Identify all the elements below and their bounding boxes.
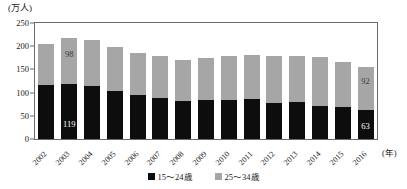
bar-value-label: 98 (65, 50, 74, 59)
bar-segment-25-34[interactable] (289, 56, 305, 102)
legend-item-label: 15～24歳 (158, 170, 193, 182)
x-axis-tick-label: 2012 (260, 150, 277, 167)
bar-segment-15-24[interactable] (84, 86, 100, 139)
bar-column[interactable] (335, 62, 351, 139)
bar-segment-25-34[interactable] (107, 47, 123, 92)
bar-column[interactable] (312, 57, 328, 139)
x-axis-tick-group: 2002200320042005200620072008200920102011… (35, 141, 377, 173)
y-axis-tick-label: 250 (16, 19, 29, 27)
x-axis-tick-label: 2006 (123, 150, 140, 167)
bar-segment-25-34[interactable] (266, 56, 282, 103)
legend-item-label: 25～34歳 (225, 170, 260, 182)
x-axis-tick-label: 2008 (169, 150, 186, 167)
x-axis-unit-label: (年) (382, 146, 397, 158)
bar-segment-25-34[interactable] (152, 56, 168, 98)
bar-segment-25-34[interactable] (175, 60, 191, 101)
x-axis-tick-label: 2002 (32, 150, 49, 167)
bar-segment-25-34[interactable] (38, 44, 54, 85)
x-axis-tick-label: 2007 (146, 150, 163, 167)
y-axis-tick-label: 150 (16, 65, 29, 73)
bar-column[interactable] (152, 56, 168, 140)
bar-column[interactable] (244, 55, 260, 139)
bar-segment-25-34[interactable] (221, 56, 237, 101)
bar-column[interactable]: 9263 (358, 67, 374, 139)
bar-column[interactable] (266, 56, 282, 139)
bar-segment-15-24[interactable] (152, 98, 168, 139)
bar-segment-15-24[interactable] (221, 100, 237, 139)
x-axis-tick-label: 2013 (283, 150, 300, 167)
bar-segment-25-34[interactable] (312, 57, 328, 106)
black-square-icon (148, 173, 155, 180)
bar-column[interactable] (175, 60, 191, 139)
bar-segment-15-24[interactable] (198, 100, 214, 139)
bar-column[interactable] (289, 56, 305, 139)
stacked-bar-chart: (万人) 250200150100500 981199263 200220032… (0, 0, 407, 189)
bar-column[interactable] (198, 58, 214, 139)
bar-segment-15-24[interactable] (130, 95, 146, 139)
x-axis-tick-label: 2016 (351, 150, 368, 167)
y-axis-tick-label: 200 (16, 42, 29, 50)
bar-segment-25-34[interactable] (84, 40, 100, 86)
x-axis-tick-label: 2005 (100, 150, 117, 167)
y-axis-unit-label: (万人) (8, 3, 32, 14)
bar-segment-15-24[interactable] (289, 102, 305, 139)
x-axis-tick-label: 2003 (55, 150, 72, 167)
x-axis-tick-label: 2011 (237, 150, 254, 167)
bar-column[interactable] (107, 47, 123, 139)
x-axis-tick-label: 2015 (328, 150, 345, 167)
bar-segment-25-34[interactable] (198, 58, 214, 100)
bar-value-label: 92 (361, 77, 370, 86)
bar-segment-25-34[interactable] (335, 62, 351, 107)
x-axis-tick-label: 2004 (78, 150, 95, 167)
x-axis-tick-label: 2009 (192, 150, 209, 167)
bar-value-label: 119 (63, 120, 75, 129)
bar-column[interactable] (38, 44, 54, 139)
bar-segment-15-24[interactable] (107, 91, 123, 139)
chart-legend: 15～24歳 25～34歳 (0, 170, 407, 182)
bar-value-label: 63 (361, 122, 370, 131)
bar-segment-15-24[interactable] (175, 101, 191, 139)
gray-square-icon (215, 173, 222, 180)
bar-segment-25-34[interactable]: 98 (61, 38, 77, 83)
y-axis-tick-label: 100 (16, 89, 29, 97)
bar-column[interactable] (130, 53, 146, 139)
bar-column[interactable] (221, 56, 237, 140)
bar-segment-15-24[interactable] (266, 103, 282, 139)
legend-item-25-34[interactable]: 25～34歳 (215, 170, 260, 182)
y-axis-tick-group: 250200150100500 (0, 22, 34, 140)
y-axis-tick-label: 50 (21, 112, 30, 120)
bar-segment-15-24[interactable]: 63 (358, 110, 374, 139)
bar-segment-25-34[interactable] (244, 55, 260, 100)
bar-segment-15-24[interactable] (335, 107, 351, 139)
x-axis-tick-label: 2014 (306, 150, 323, 167)
legend-item-15-24[interactable]: 15～24歳 (148, 170, 193, 182)
bar-segment-15-24[interactable] (312, 106, 328, 139)
bars-layer: 981199263 (35, 23, 377, 139)
bar-segment-25-34[interactable]: 92 (358, 67, 374, 110)
x-axis-tick-label: 2010 (214, 150, 231, 167)
bar-column[interactable]: 98119 (61, 38, 77, 139)
bar-segment-15-24[interactable]: 119 (61, 84, 77, 139)
bar-column[interactable] (84, 40, 100, 139)
bar-segment-25-34[interactable] (130, 53, 146, 95)
bar-segment-15-24[interactable] (244, 99, 260, 139)
bar-segment-15-24[interactable] (38, 85, 54, 139)
y-axis-tick-label: 0 (25, 135, 29, 143)
